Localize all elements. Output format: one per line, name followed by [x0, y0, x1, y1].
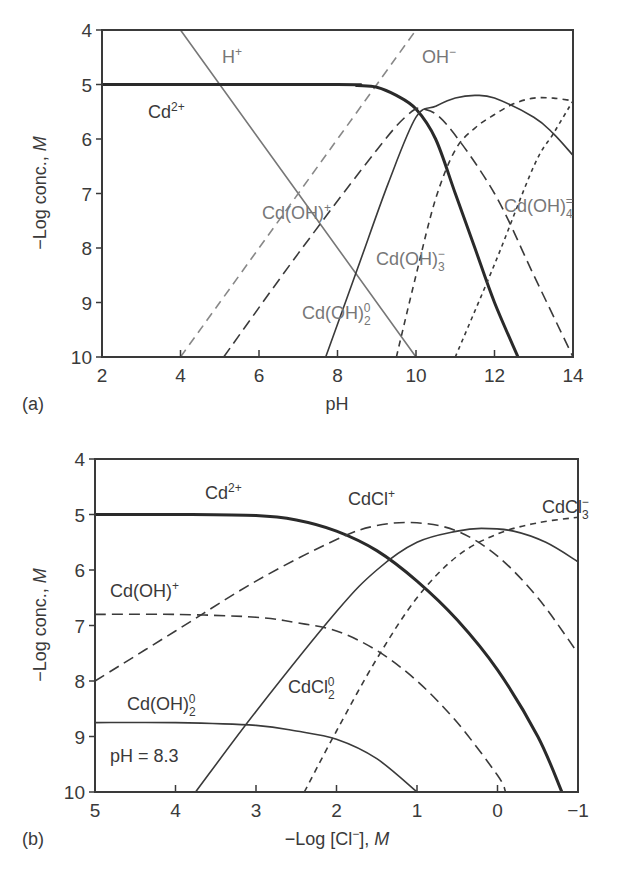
x-tick-label: 4 — [175, 365, 186, 386]
x-tick-label: 8 — [332, 365, 343, 386]
label-b-cdoh2-zero: Cd(OH)20 — [127, 692, 196, 719]
label-cdoh4-eq: Cd(OH)4= — [504, 194, 573, 221]
y-tick-label: 5 — [74, 505, 85, 526]
label-b-cdoh-plus: Cd(OH)+ — [110, 579, 179, 601]
chart-a-ylabel: −Log conc., M — [30, 136, 50, 250]
curve-cd-oh-4- — [455, 101, 573, 357]
chart-b-ylabel: −Log conc., M — [30, 568, 50, 682]
curve-cdcl- — [95, 522, 578, 681]
ph-annotation: pH = 8.3 — [110, 746, 179, 766]
y-tick-label: 10 — [64, 782, 85, 803]
figure: 246810121445678910 H+ OH− Cd2+ Cd(OH)+ C… — [0, 0, 623, 878]
curve-cd-oh-3- — [396, 98, 573, 357]
y-tick-label: 4 — [74, 449, 85, 470]
curve-cdcl3- — [304, 517, 578, 792]
x-tick-label: 0 — [492, 800, 503, 821]
curve-cd-oh- — [224, 108, 573, 357]
y-tick-label: 8 — [81, 238, 92, 259]
y-tick-label: 8 — [74, 671, 85, 692]
x-tick-label: 3 — [251, 800, 262, 821]
label-cd2plus: Cd2+ — [148, 100, 185, 122]
label-cdoh2-zero: Cd(OH)20 — [302, 301, 371, 328]
label-cdcl-plus: CdCl+ — [348, 487, 395, 509]
y-tick-label: 6 — [74, 560, 85, 581]
x-tick-label: 2 — [97, 365, 108, 386]
x-tick-label: 14 — [562, 365, 584, 386]
panel-label-a: (a) — [22, 394, 44, 414]
x-tick-label: 1 — [412, 800, 423, 821]
chart-a: 246810121445678910 H+ OH− Cd2+ Cd(OH)+ C… — [22, 20, 584, 414]
y-tick-label: 9 — [81, 293, 92, 314]
x-tick-label: 5 — [90, 800, 101, 821]
chart-a-xlabel: pH — [325, 394, 348, 414]
chart-b: 543210−145678910 Cd2+ CdCl+ CdCl3− Cd(OH… — [22, 449, 589, 849]
x-tick-label: 6 — [254, 365, 265, 386]
y-tick-label: 9 — [74, 727, 85, 748]
x-tick-label: −1 — [567, 800, 589, 821]
panel-label-b: (b) — [22, 829, 44, 849]
curve-cdcl2-0 — [196, 528, 578, 792]
label-cdoh-plus: Cd(OH)+ — [262, 201, 331, 223]
y-tick-label: 7 — [74, 616, 85, 637]
y-tick-label: 5 — [81, 75, 92, 96]
label-cdcl2-zero: CdCl20 — [288, 675, 335, 702]
y-tick-label: 7 — [81, 184, 92, 205]
chart-b-xlabel: −Log [Cl−], M — [285, 827, 390, 849]
x-tick-label: 2 — [331, 800, 342, 821]
label-h-plus: H+ — [222, 45, 242, 67]
x-tick-label: 4 — [170, 800, 181, 821]
label-cdcl3-minus: CdCl3− — [542, 495, 589, 522]
x-tick-label: 10 — [405, 365, 426, 386]
label-cdoh3-minus: Cd(OH)3− — [376, 247, 445, 274]
y-tick-label: 4 — [81, 20, 92, 41]
label-oh-minus: OH− — [422, 45, 456, 67]
y-tick-label: 10 — [71, 347, 92, 368]
x-tick-label: 12 — [484, 365, 505, 386]
chart-b-frame — [95, 459, 578, 792]
label-b-cd2plus: Cd2+ — [205, 481, 242, 503]
y-tick-label: 6 — [81, 129, 92, 150]
